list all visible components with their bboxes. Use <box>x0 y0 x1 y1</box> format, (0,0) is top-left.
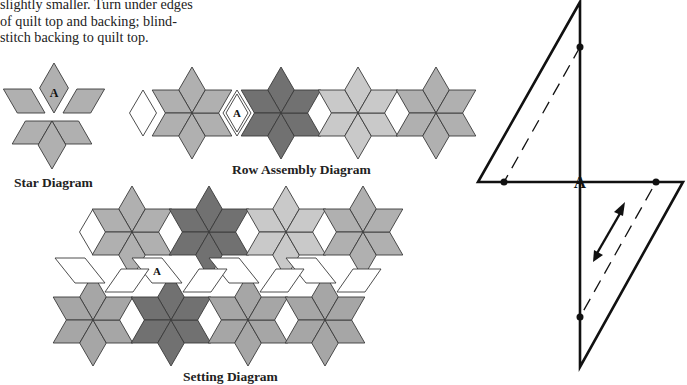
setting-parallelogram <box>105 269 149 292</box>
corner-dot-right <box>653 179 660 186</box>
quilt-diagrams: A A A A <box>0 0 687 385</box>
setting-diagram: A <box>53 186 403 366</box>
setting-parallelogram <box>260 269 304 292</box>
template-label: A <box>574 173 587 192</box>
setting-parallelogram <box>337 269 381 292</box>
piece-label-a: A <box>50 86 59 100</box>
row-assembly-caption: Row Assembly Diagram <box>232 162 371 178</box>
setting-diagram-caption: Setting Diagram <box>183 369 278 385</box>
piece-label-a: A <box>153 265 161 277</box>
piece-label-a: A <box>233 107 241 119</box>
setting-parallelogram <box>55 258 105 283</box>
star-piece-upper-right <box>63 89 105 113</box>
grainline-arrow-icon <box>593 202 625 262</box>
corner-dot-bottom <box>577 314 584 321</box>
corner-dot-top <box>577 44 584 51</box>
corner-dot-left <box>501 179 508 186</box>
row-assembly-diagram: A <box>130 67 476 159</box>
star-diagram: A <box>3 63 104 169</box>
setting-parallelogram <box>183 269 227 292</box>
white-diamond <box>130 90 157 136</box>
star-diagram-caption: Star Diagram <box>14 175 93 191</box>
star-piece-upper-left <box>3 89 45 113</box>
